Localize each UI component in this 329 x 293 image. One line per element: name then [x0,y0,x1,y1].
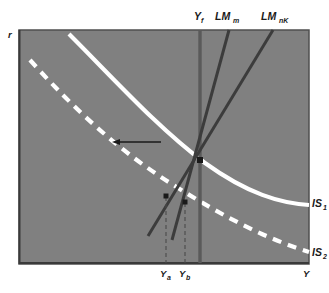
label-lm-nk: LM nK [261,10,289,24]
label-lm-m: LM m [215,10,239,24]
label-lm-nk-base: LM [261,10,276,22]
point-equilibrium-a [164,194,169,199]
x-axis-label: Y [303,268,311,279]
label-ya: Y a [160,268,171,281]
label-ya-subscript: a [167,274,171,281]
label-yb-subscript: b [186,274,191,281]
label-lm-m-base: LM [215,10,230,22]
label-yb: Y b [179,268,191,281]
label-is1: IS 1 [312,197,327,211]
y-axis-label: r [8,29,13,40]
label-is2-base: IS [312,246,322,258]
label-is2: IS 2 [312,246,327,260]
label-yf: Y f [194,10,204,24]
point-full-employment-equilibrium [197,157,203,163]
diagram-canvas: r Y Y f LM m LM nK IS 1 IS 2 Y [0,0,329,293]
label-is2-subscript: 2 [322,253,327,260]
label-lm-m-subscript: m [233,17,239,24]
plot-area-background [19,30,309,264]
is-lm-diagram-figure: r Y Y f LM m LM nK IS 1 IS 2 Y [0,0,329,293]
label-is1-subscript: 1 [323,204,327,211]
label-yf-subscript: f [201,17,204,24]
point-equilibrium-b [183,200,188,205]
label-lm-nk-subscript: nK [279,17,289,24]
label-is1-base: IS [312,197,322,209]
